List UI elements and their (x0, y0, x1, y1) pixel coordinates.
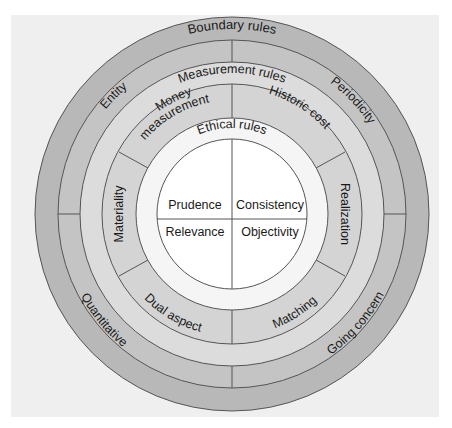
concept-wheel-diagram: Boundary rules Entity Periodicity Quanti… (0, 0, 452, 428)
prudence-label: Prudence (168, 198, 222, 212)
materiality-label: Materiality (112, 185, 126, 243)
objectivity-label: Objectivity (241, 225, 299, 239)
consistency-label: Consistency (236, 198, 305, 212)
relevance-label: Relevance (165, 225, 224, 239)
realization-label: Realization (338, 183, 352, 245)
